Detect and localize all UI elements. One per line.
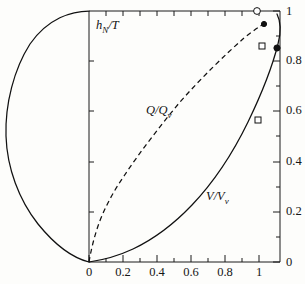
marker-filled-peak-dashed <box>261 21 266 26</box>
x-tick-label-3: 0.6 <box>183 266 199 279</box>
marker-filled-circle-solid <box>274 45 280 51</box>
label-q-qv-main: Q/Q <box>146 103 168 117</box>
x-tick-label-2: 0.4 <box>149 266 165 279</box>
y-tick-label-5: 1 <box>286 5 292 18</box>
top-axis-ticks <box>106 11 259 16</box>
label-v-vv: V/Vv <box>206 190 229 206</box>
label-v-vv-sub: v <box>225 196 229 206</box>
curve-hn-t <box>6 11 89 262</box>
x-tick-label-1: 0.2 <box>115 266 131 279</box>
axis-frame <box>89 11 280 262</box>
chart-plot-area <box>0 0 305 284</box>
marker-open-square-lower <box>255 117 261 123</box>
x-tick-label-0: 0 <box>86 266 92 279</box>
y-tick-label-3: 0.6 <box>286 104 302 117</box>
chart-figure: 0 0.2 0.4 0.6 0.8 1 0 0.2 0.4 0.6 0.8 1 … <box>0 0 305 284</box>
x-tick-label-5: 1 <box>256 266 262 279</box>
zero-line-ticks <box>89 61 94 212</box>
label-q-qv: Q/Qv <box>146 104 172 120</box>
x-tick-label-4: 0.8 <box>217 266 233 279</box>
y-tick-label-2: 0.4 <box>286 155 302 168</box>
label-q-qv-sub: v <box>168 110 172 120</box>
curve-v-vv <box>89 14 280 262</box>
marker-open-square-upper <box>259 43 265 49</box>
label-hn-t-rest: /T <box>108 18 118 32</box>
y-tick-label-4: 0.8 <box>286 54 302 67</box>
y-tick-label-0: 0 <box>286 256 292 269</box>
label-v-vv-main: V/V <box>206 189 225 203</box>
marker-open-circle-top <box>254 8 261 15</box>
y-tick-label-1: 0.2 <box>286 205 302 218</box>
label-hn-t: hN/T <box>96 19 119 35</box>
